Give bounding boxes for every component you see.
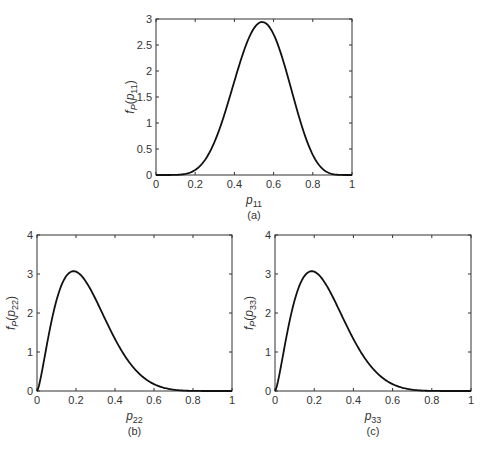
density-curve: [156, 22, 352, 175]
y-tick-label: 0: [265, 385, 271, 397]
x-tick-label: 0.2: [188, 178, 203, 190]
x-tick-label: 0.6: [385, 394, 400, 406]
x-tick-label: 0.2: [68, 394, 83, 406]
x-tick-label: 0.2: [307, 394, 322, 406]
panel-label: (b): [128, 425, 141, 437]
y-tick-label: 2.5: [137, 39, 152, 51]
y-tick-label: 0.5: [137, 143, 152, 155]
x-axis-label: p11: [245, 193, 262, 209]
y-tick-label: 0: [146, 169, 152, 181]
x-tick-label: 0: [153, 178, 159, 190]
y-axis-label: fP(p11): [123, 80, 139, 113]
x-tick-label: 0.4: [107, 394, 122, 406]
y-tick-label: 2: [146, 65, 152, 77]
x-tick-label: 0.4: [227, 178, 242, 190]
x-tick-label: 1: [229, 394, 235, 406]
y-tick-label: 2: [265, 307, 271, 319]
figure-canvas: 00.20.40.60.8100.511.522.53p11fP(p11)(a)…: [0, 0, 488, 454]
x-tick-label: 0: [34, 394, 40, 406]
panel-a-chart: 00.20.40.60.8100.511.522.53p11fP(p11)(a): [123, 13, 355, 221]
y-tick-label: 1: [265, 346, 271, 358]
x-axis-label: p22: [125, 409, 143, 425]
panel-b-chart: 00.20.40.60.8101234p22fP(p22)(b): [4, 229, 235, 437]
x-tick-label: 0.8: [185, 394, 200, 406]
x-tick-label: 0: [272, 394, 278, 406]
y-tick-label: 0: [27, 385, 33, 397]
y-tick-label: 4: [265, 229, 271, 241]
y-axis-label: fP(p22): [4, 296, 20, 330]
panel-label: (c): [367, 425, 380, 437]
panel-c-chart: 00.20.40.60.8101234p33fP(p33)(c): [242, 229, 474, 437]
density-curve: [37, 271, 232, 391]
y-tick-label: 3: [265, 268, 271, 280]
x-tick-label: 1: [349, 178, 355, 190]
y-tick-label: 2: [27, 307, 33, 319]
x-tick-label: 1: [468, 394, 474, 406]
x-tick-label: 0.8: [305, 178, 320, 190]
y-tick-label: 3: [146, 13, 152, 25]
x-axis-label: p33: [364, 409, 382, 425]
y-tick-label: 4: [27, 229, 33, 241]
x-tick-label: 0.6: [266, 178, 281, 190]
x-tick-label: 0.4: [346, 394, 361, 406]
figure-caption-fragment: [4, 446, 484, 454]
y-tick-label: 1: [146, 117, 152, 129]
x-tick-label: 0.6: [146, 394, 161, 406]
density-curve: [275, 271, 471, 391]
y-axis-label: fP(p33): [242, 296, 258, 330]
x-tick-label: 0.8: [424, 394, 439, 406]
plot-area-frame: [156, 19, 352, 175]
y-tick-label: 1: [27, 346, 33, 358]
y-tick-label: 3: [27, 268, 33, 280]
panel-label: (a): [247, 209, 260, 221]
